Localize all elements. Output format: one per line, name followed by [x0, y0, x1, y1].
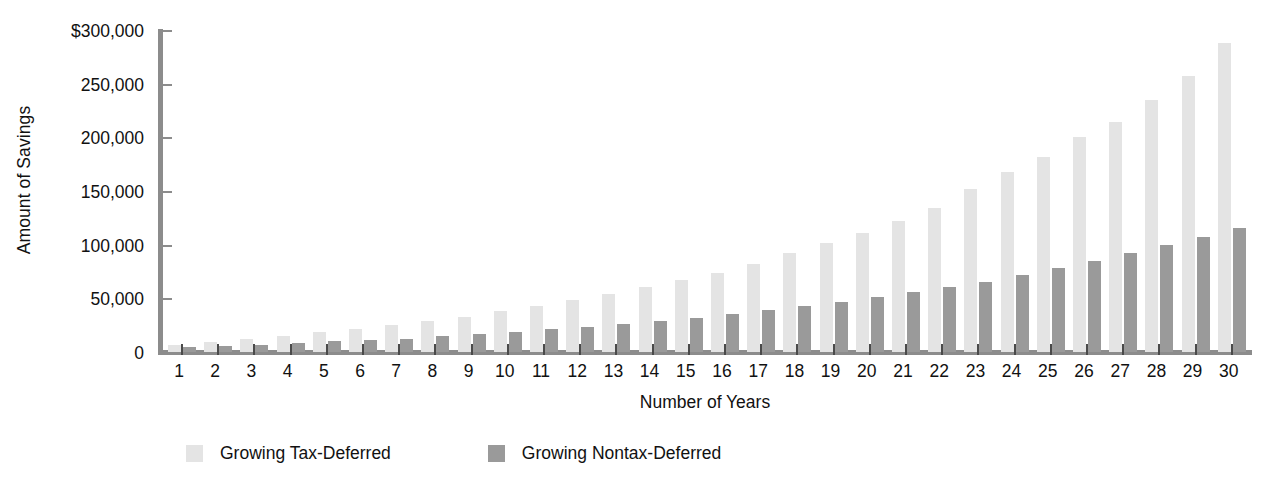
bar-group [817, 0, 853, 355]
x-axis-tick-mark [579, 344, 581, 355]
bar-group [1106, 0, 1142, 355]
bar-growing-tax-deferred [928, 208, 941, 352]
x-axis-tick-label: 14 [640, 361, 659, 382]
bar-growing-tax-deferred [820, 243, 833, 352]
bar-growing-nontax-deferred [473, 334, 486, 352]
x-axis-tick-label: 29 [1183, 361, 1202, 382]
y-axis-tick-label: 200,000 [81, 128, 144, 149]
x-axis-tick-label: 24 [1002, 361, 1021, 382]
bar-growing-tax-deferred [711, 273, 724, 352]
x-axis-tick-mark [507, 344, 509, 355]
x-axis-tick-label: 27 [1110, 361, 1129, 382]
x-axis-tick-label: 25 [1038, 361, 1057, 382]
bar-group [274, 0, 310, 355]
y-axis-tick-mark [163, 245, 172, 247]
legend-swatch-icon [186, 445, 203, 462]
bar-growing-nontax-deferred [726, 314, 739, 352]
bar-growing-nontax-deferred [400, 339, 413, 352]
bar-growing-tax-deferred [240, 339, 253, 352]
bar-growing-tax-deferred [639, 287, 652, 352]
bar-growing-tax-deferred [458, 317, 471, 352]
bar-growing-nontax-deferred [219, 346, 232, 352]
bar-growing-tax-deferred [1182, 76, 1195, 352]
x-axis-tick-label: 13 [604, 361, 623, 382]
y-axis-title: Amount of Savings [14, 0, 40, 360]
bar-group [455, 0, 491, 355]
bar-growing-tax-deferred [1073, 137, 1086, 352]
bar-growing-tax-deferred [530, 306, 543, 352]
x-axis-tick-mark [615, 344, 617, 355]
y-axis-tick-label: 50,000 [90, 289, 144, 310]
x-axis-tick-mark [1050, 344, 1052, 355]
x-axis-tick-mark [181, 344, 183, 355]
x-axis-tick-mark [253, 344, 255, 355]
bar-group [346, 0, 382, 355]
bar-growing-nontax-deferred [1160, 245, 1173, 352]
bar-growing-nontax-deferred [509, 332, 522, 352]
bar-growing-nontax-deferred [436, 336, 449, 352]
legend-label: Growing Nontax-Deferred [522, 443, 721, 464]
bar-group [1215, 0, 1251, 355]
bar-growing-nontax-deferred [183, 347, 196, 352]
x-axis-tick-mark [1086, 344, 1088, 355]
x-axis-tick-label: 15 [676, 361, 695, 382]
x-axis-tick-label: 9 [464, 361, 474, 382]
x-axis-tick-label: 18 [785, 361, 804, 382]
legend-swatch-icon [488, 445, 505, 462]
x-axis-tick-label: 22 [929, 361, 948, 382]
x-axis-tick-mark [326, 344, 328, 355]
y-axis-tick-label: 150,000 [81, 182, 144, 203]
bar-growing-nontax-deferred [1088, 261, 1101, 352]
bar-group [1142, 0, 1178, 355]
bar-group [310, 0, 346, 355]
bar-group [491, 0, 527, 355]
bar-group [599, 0, 635, 355]
x-axis-tick-mark [1195, 344, 1197, 355]
bar-growing-nontax-deferred [1052, 268, 1065, 352]
x-axis-tick-mark [796, 344, 798, 355]
bar-growing-tax-deferred [421, 321, 434, 352]
x-axis-tick-label: 6 [355, 361, 365, 382]
x-axis-tick-label: 30 [1219, 361, 1238, 382]
chart-legend: Growing Tax-Deferred Growing Nontax-Defe… [186, 443, 721, 464]
bar-growing-tax-deferred [892, 221, 905, 352]
bar-growing-nontax-deferred [871, 297, 884, 352]
bar-growing-tax-deferred [602, 294, 615, 352]
x-axis-tick-label: 3 [247, 361, 257, 382]
bar-group [672, 0, 708, 355]
bar-group [853, 0, 889, 355]
x-axis-tick-mark [724, 344, 726, 355]
y-axis-tick-mark [163, 84, 172, 86]
legend-item-growing-nontax-deferred: Growing Nontax-Deferred [488, 443, 721, 464]
bar-group [1070, 0, 1106, 355]
bar-growing-tax-deferred [783, 253, 796, 352]
legend-label: Growing Tax-Deferred [220, 443, 391, 464]
bar-group [1034, 0, 1070, 355]
x-axis-tick-label: 2 [210, 361, 220, 382]
x-axis-tick-mark [1014, 344, 1016, 355]
x-axis-title-wrapper: Number of Years [0, 392, 1288, 413]
bar-growing-tax-deferred [313, 332, 326, 352]
bar-growing-nontax-deferred [654, 321, 667, 352]
x-axis-tick-label: 16 [712, 361, 731, 382]
bar-group [925, 0, 961, 355]
x-axis-tick-mark [290, 344, 292, 355]
x-axis-tick-label: 7 [391, 361, 401, 382]
bar-growing-nontax-deferred [292, 343, 305, 352]
bars-layer [163, 0, 1252, 355]
x-axis-tick-label: 20 [857, 361, 876, 382]
x-axis-tick-mark [652, 344, 654, 355]
bar-group [998, 0, 1034, 355]
bar-growing-tax-deferred [1109, 122, 1122, 352]
y-axis-tick-label: 250,000 [81, 74, 144, 95]
x-axis-tick-mark [760, 344, 762, 355]
x-axis-tick-labels: 1234567891011121314151617181920212223242… [163, 361, 1252, 385]
bar-group [636, 0, 672, 355]
x-axis-tick-mark [977, 344, 979, 355]
bar-growing-nontax-deferred [617, 324, 630, 352]
x-axis-tick-mark [833, 344, 835, 355]
bar-growing-tax-deferred [349, 329, 362, 352]
bar-growing-tax-deferred [277, 336, 290, 352]
x-axis-tick-label: 4 [283, 361, 293, 382]
bar-growing-nontax-deferred [835, 302, 848, 352]
